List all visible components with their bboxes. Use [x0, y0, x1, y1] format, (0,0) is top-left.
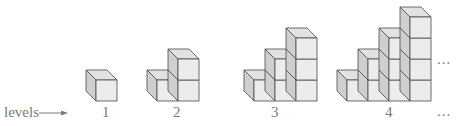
- continuation-mark-levels: ...: [437, 104, 451, 119]
- cube-stack-level-2: [147, 49, 199, 101]
- level-1-label: 1: [102, 105, 110, 120]
- levels-arrow-icon: [39, 111, 68, 116]
- staircase-diagram: [0, 0, 465, 126]
- continuation-mark-row: ...: [437, 52, 451, 67]
- cube-stack-level-1: [86, 70, 117, 101]
- cube-stack-level-4: [337, 7, 431, 101]
- cube-stacks: [86, 7, 431, 101]
- cube: [86, 70, 117, 101]
- cube-stack-level-3: [244, 28, 317, 101]
- level-3-label: 3: [271, 105, 279, 120]
- level-2-label: 2: [173, 105, 181, 120]
- levels-label: levels: [4, 105, 39, 120]
- level-4-label: 4: [385, 105, 393, 120]
